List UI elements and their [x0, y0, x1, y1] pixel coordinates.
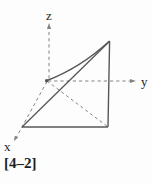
diagram-svg: z y x [4–2] — [0, 0, 152, 185]
x-axis-label: x — [4, 139, 11, 154]
z-axis-label: z — [46, 8, 52, 23]
figure-caption: [4–2] — [4, 155, 37, 171]
y-axis-label: y — [141, 74, 148, 89]
figure-4-2: z y x [4–2] — [0, 0, 152, 185]
origin-point — [45, 79, 48, 82]
